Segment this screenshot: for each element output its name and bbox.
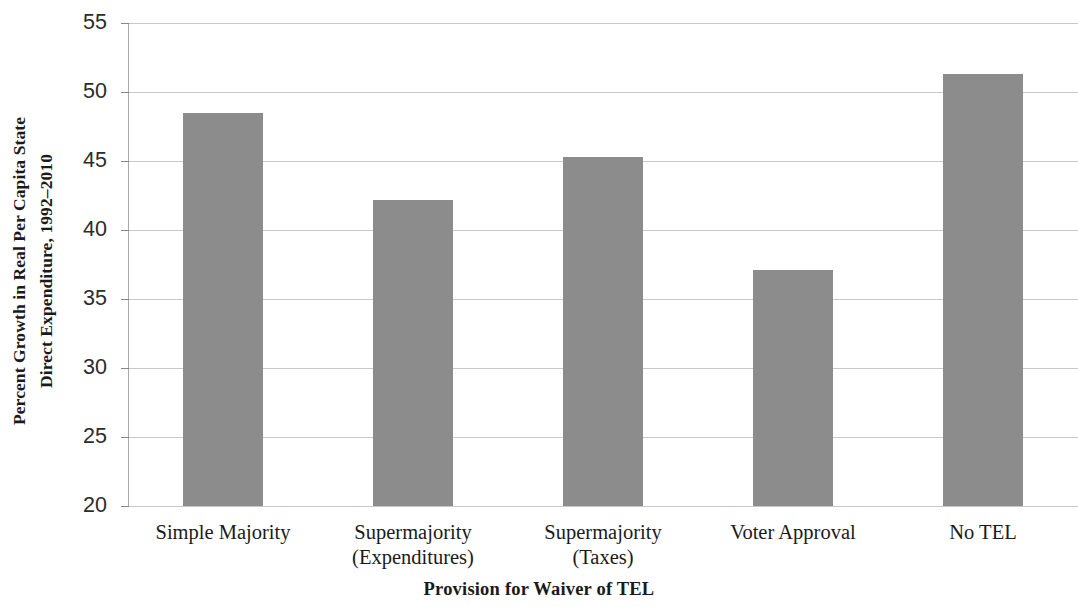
gridline: [128, 92, 1078, 93]
gridline: [128, 23, 1078, 24]
y-axis-tick-label: 25: [59, 426, 107, 448]
y-axis-title: Percent Growth in Real Per Capita State …: [5, 26, 61, 516]
x-category-label: Simple Majority: [128, 520, 318, 545]
x-category-label-line-1: Voter Approval: [730, 521, 855, 543]
y-axis-tick-label: 40: [59, 219, 107, 241]
x-category-label-line-1: Simple Majority: [156, 521, 291, 543]
bar[interactable]: [373, 200, 453, 506]
bar[interactable]: [753, 270, 833, 506]
y-axis-tick: [121, 161, 129, 162]
y-axis-tick-label: 30: [59, 357, 107, 379]
y-axis-tick: [121, 92, 129, 93]
y-axis-title-line-2: Direct Expenditure, 1992–2010: [33, 154, 60, 388]
x-category-label: Supermajority(Taxes): [508, 520, 698, 570]
y-axis-tick: [121, 299, 129, 300]
x-category-label: No TEL: [888, 520, 1078, 545]
y-axis-tick: [121, 437, 129, 438]
y-axis-tick-label: 20: [59, 495, 107, 517]
y-axis-tick-label: 55: [59, 12, 107, 34]
y-axis-title-line-1: Percent Growth in Real Per Capita State: [6, 117, 33, 425]
x-category-label-line-1: Supermajority: [354, 521, 471, 543]
x-category-label-line-2: (Taxes): [508, 545, 698, 570]
x-category-label-line-1: Supermajority: [544, 521, 661, 543]
bar[interactable]: [943, 74, 1023, 506]
bar[interactable]: [563, 157, 643, 506]
x-category-label: Voter Approval: [698, 520, 888, 545]
x-axis-title: Provision for Waiver of TEL: [0, 578, 1078, 600]
y-axis-tick-label: 50: [59, 81, 107, 103]
x-category-label: Supermajority(Expenditures): [318, 520, 508, 570]
bar-chart: Percent Growth in Real Per Capita State …: [0, 0, 1078, 607]
y-axis-tick: [121, 368, 129, 369]
plot-area: [128, 23, 1078, 506]
x-category-label-line-1: No TEL: [949, 521, 1016, 543]
y-axis-tick-label: 35: [59, 288, 107, 310]
y-axis-tick-label: 45: [59, 150, 107, 172]
y-axis-tick: [121, 230, 129, 231]
bar[interactable]: [183, 113, 263, 506]
gridline: [128, 506, 1078, 507]
x-category-label-line-2: (Expenditures): [318, 545, 508, 570]
y-axis-tick: [121, 23, 129, 24]
y-axis-tick: [121, 506, 129, 507]
